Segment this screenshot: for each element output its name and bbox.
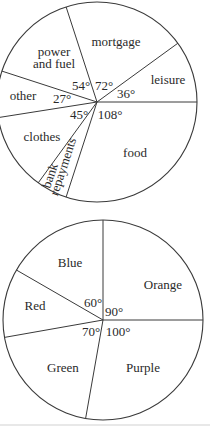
bottom-divider <box>0 424 210 426</box>
pie2-label-blue: Blue <box>58 255 83 270</box>
pie-charts-figure: mortgage power and fuel leisure other cl… <box>0 0 210 428</box>
pie1-label-and-fuel: and fuel <box>33 56 76 71</box>
pie2-label-orange: Orange <box>144 277 182 292</box>
pie1-label-clothes: clothes <box>24 129 61 144</box>
pie2-angle-purple: 100° <box>106 324 131 339</box>
pie-chart-colours: Blue Orange Red Green Purple 60° 90° 70°… <box>3 220 203 420</box>
pie1-angle-other: 27° <box>53 91 71 106</box>
pie1-angle-food: 108° <box>98 107 123 122</box>
pie2-label-purple: Purple <box>126 360 160 375</box>
pie2-label-green: Green <box>47 360 79 375</box>
pie1-angle-power: 54° <box>72 78 90 93</box>
pie2-angle-orange: 90° <box>105 304 123 319</box>
pie-chart-expenses: mortgage power and fuel leisure other cl… <box>0 2 197 202</box>
pie1-label-mortgage: mortgage <box>91 34 140 49</box>
pie1-angle-leisure: 36° <box>117 86 135 101</box>
pie2-label-red: Red <box>25 298 46 313</box>
pie1-label-leisure: leisure <box>151 72 186 87</box>
pie2-angle-green: 70° <box>82 324 100 339</box>
pie1-angle-clothes: 45° <box>70 107 88 122</box>
pie1-label-other: other <box>10 88 37 103</box>
pie1-label-food: food <box>123 145 147 160</box>
pie1-angle-mortgage: 72° <box>95 78 113 93</box>
pie2-angle-blue: 60° <box>84 295 102 310</box>
